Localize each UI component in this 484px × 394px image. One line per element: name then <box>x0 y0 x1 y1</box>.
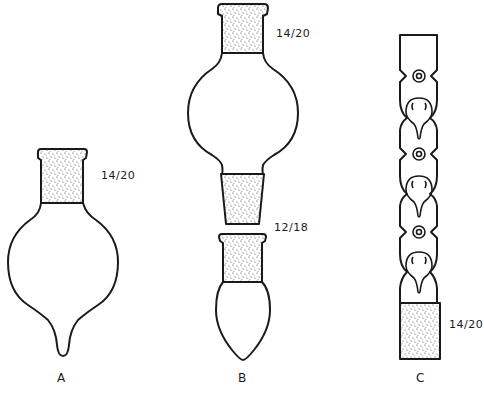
joint-label-a: 14/20 <box>101 169 135 182</box>
column-c-ring-indents <box>413 70 425 238</box>
receiver-b-body <box>216 282 270 360</box>
bulb-b-body <box>188 53 298 174</box>
glassware-diagram <box>0 0 484 394</box>
column-c <box>400 35 440 359</box>
caption-a: A <box>57 371 65 385</box>
joint-label-b-top: 14/20 <box>276 27 310 40</box>
flask-a-body <box>8 203 118 356</box>
joint-label-b-bottom: 12/18 <box>274 221 308 234</box>
caption-b: B <box>238 371 246 385</box>
column-c-drip-tips <box>406 98 432 293</box>
column-c-ground-joint <box>400 303 440 359</box>
receiver-b-joint <box>219 234 266 282</box>
apparatus-b <box>188 4 298 360</box>
flask-a-ground-joint <box>38 149 87 203</box>
bulb-b-inner-joint <box>221 174 264 224</box>
joint-label-c: 14/20 <box>449 318 483 331</box>
bulb-b-top-joint <box>218 4 268 53</box>
caption-c: C <box>416 371 424 385</box>
